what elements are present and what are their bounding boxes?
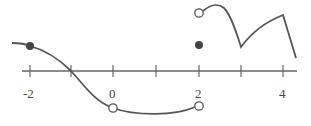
tick-label-4: 4 (279, 86, 286, 101)
open-point-2-high (195, 9, 203, 17)
tick-label-2: 2 (195, 86, 202, 101)
filled-point-2 (195, 41, 203, 49)
filled-point-neg2 (26, 42, 34, 50)
open-point-0 (109, 104, 117, 112)
left-curve (12, 43, 195, 114)
tick-label-neg2: -2 (23, 86, 34, 101)
function-graph: -2 0 2 4 (0, 0, 311, 126)
tick-label-0: 0 (109, 86, 116, 101)
open-point-2-low (195, 102, 203, 110)
right-curve (203, 5, 296, 58)
